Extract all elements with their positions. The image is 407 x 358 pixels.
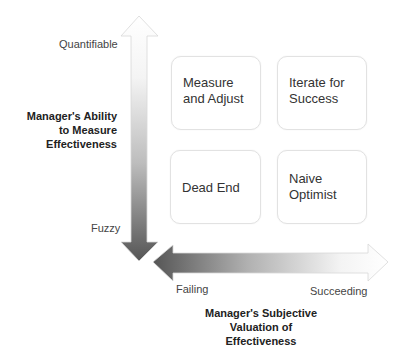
x-axis-title: Manager's Subjective Valuation of Effect… — [180, 306, 342, 348]
quadrant-iterate-for-success: Iterate for Success — [277, 56, 367, 130]
quadrant-naive-optimist: Naive Optimist — [277, 150, 367, 224]
quadrant-measure-and-adjust: Measure and Adjust — [171, 56, 261, 130]
vertical-arrow — [121, 16, 158, 261]
quadrant-dead-end: Dead End — [170, 150, 261, 224]
y-axis-top-label: Quantifiable — [59, 38, 118, 50]
horizontal-arrow — [153, 244, 388, 281]
x-axis-left-label: Failing — [176, 283, 208, 295]
y-axis-title: Manager's Ability to Measure Effectivene… — [27, 109, 117, 151]
x-axis-right-label: Succeeding — [310, 285, 368, 297]
y-axis-bottom-label: Fuzzy — [91, 222, 120, 234]
